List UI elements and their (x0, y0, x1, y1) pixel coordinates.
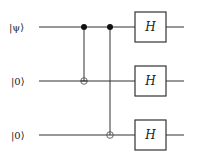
hadamard-gate-q0: H (135, 12, 166, 42)
gate-label: H (144, 74, 156, 88)
quantum-circuit: |ψ⟩ |0⟩ |0⟩ H H H (0, 0, 197, 160)
cnot-gate-0-1 (81, 24, 88, 84)
control-dot-icon (107, 24, 113, 30)
hadamard-gate-q1: H (135, 66, 166, 96)
qubit-label-zero-1: |0⟩ (11, 76, 25, 88)
qubit-label-zero-2: |0⟩ (11, 130, 25, 142)
gate-label: H (144, 128, 156, 142)
hadamard-gate-q2: H (135, 120, 166, 150)
gate-label: H (144, 20, 156, 34)
control-dot-icon (81, 24, 87, 30)
qubit-label-psi: |ψ⟩ (9, 22, 24, 34)
